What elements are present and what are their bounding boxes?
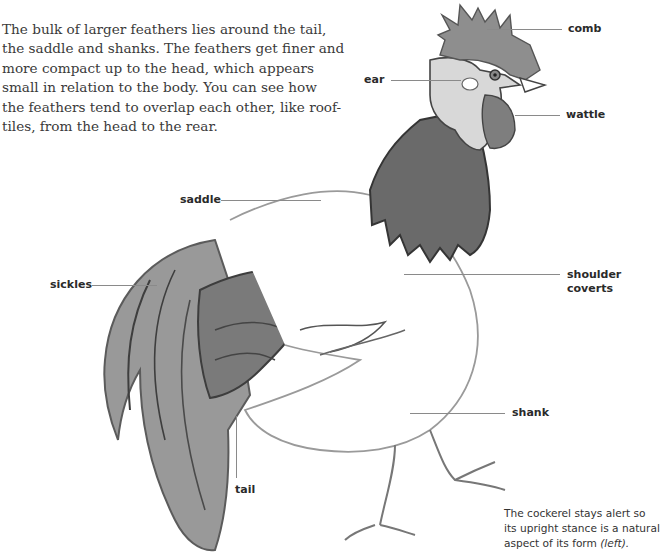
wattle-leader-line bbox=[515, 115, 560, 116]
caption-line: its upright stance is a natural bbox=[504, 521, 654, 536]
wattle bbox=[482, 95, 515, 148]
intro-paragraph: The bulk of larger feathers lies around … bbox=[2, 20, 332, 136]
caption: The cockerel stays alert so its upright … bbox=[504, 506, 654, 551]
label-comb: comb bbox=[568, 22, 601, 36]
intro-line: more compact up to the head, which appea… bbox=[2, 59, 332, 78]
shoulder-coverts-leader-line bbox=[404, 274, 560, 275]
label-shoulder-line1: shoulder bbox=[567, 268, 621, 282]
label-shoulder-coverts: shoulder coverts bbox=[567, 268, 621, 296]
label-tail: tail bbox=[235, 483, 255, 497]
intro-line: the saddle and shanks. The feathers get … bbox=[2, 39, 332, 58]
caption-line3-text: aspect of its form bbox=[504, 537, 600, 549]
intro-line: small in relation to the body. You can s… bbox=[2, 78, 332, 97]
comb-leader-line bbox=[487, 29, 562, 30]
label-ear: ear bbox=[364, 73, 384, 87]
caption-reference: (left). bbox=[600, 537, 629, 549]
label-sickles: sickles bbox=[50, 278, 92, 292]
sickles-leader-line bbox=[92, 285, 157, 286]
ear-leader-line bbox=[391, 80, 461, 81]
intro-line: The bulk of larger feathers lies around … bbox=[2, 20, 332, 39]
label-wattle: wattle bbox=[566, 108, 605, 122]
caption-line: aspect of its form (left). bbox=[504, 536, 654, 551]
label-shoulder-line2: coverts bbox=[567, 282, 621, 296]
shank-leader-line bbox=[410, 413, 505, 414]
intro-line: tiles, from the head to the rear. bbox=[2, 117, 332, 136]
caption-line: The cockerel stays alert so bbox=[504, 506, 654, 521]
saddle-leader-line bbox=[221, 200, 321, 201]
label-saddle: saddle bbox=[180, 193, 221, 207]
label-shank: shank bbox=[512, 406, 549, 420]
intro-line: the feathers tend to overlap each other,… bbox=[2, 98, 332, 117]
tail-leader-line bbox=[236, 416, 237, 478]
